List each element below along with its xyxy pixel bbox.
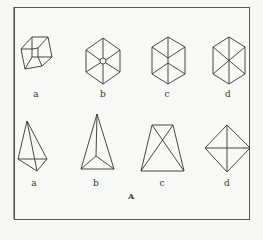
label-top-b: b (100, 89, 106, 99)
figure-caption: A (128, 191, 134, 201)
bottom-c-trapezoid-icon (141, 125, 184, 171)
top-d-hexagon-icon (213, 37, 245, 84)
bottom-a-tetrahedron-icon (18, 121, 47, 171)
top-a-cube-icon (21, 37, 52, 69)
label-bottom-b: b (93, 178, 99, 188)
label-bottom-a: a (31, 178, 36, 188)
label-top-a: a (33, 89, 38, 99)
label-bottom-c: c (159, 178, 164, 188)
top-b-hexagon-icon (86, 38, 120, 84)
bottom-d-diamond-icon (205, 125, 250, 172)
label-top-d: d (225, 89, 231, 99)
label-top-c: c (164, 89, 169, 99)
top-c-hexagon-icon (152, 37, 185, 84)
bottom-b-tetrahedron-icon (81, 114, 114, 169)
label-bottom-d: d (224, 178, 230, 188)
